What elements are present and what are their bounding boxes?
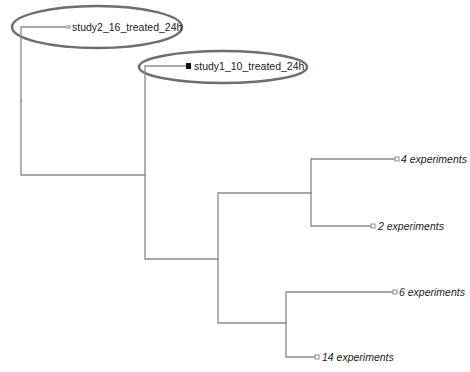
branch-root — [21, 27, 145, 175]
leaf-marker-cluster2[interactable] — [371, 224, 375, 228]
junction-dots — [20, 100, 312, 324]
leaf-label-study1[interactable]: study1_10_treated_24h — [194, 60, 304, 72]
leaf-label-cluster6[interactable]: 6 experiments — [399, 286, 465, 298]
branch-node-d — [286, 292, 393, 357]
dendrogram — [0, 0, 470, 372]
leaf-label-cluster2[interactable]: 2 experiments — [378, 220, 444, 232]
branch-node-c — [311, 159, 395, 226]
leaf-label-study2[interactable]: study2_16_treated_24h — [72, 21, 182, 33]
leaf-label-cluster14[interactable]: 14 experiments — [322, 351, 394, 363]
leaf-label-cluster4[interactable]: 4 experiments — [401, 153, 467, 165]
branch-node-a — [145, 66, 218, 259]
leaf-marker-study1[interactable] — [186, 63, 191, 69]
leaf-marker-cluster4[interactable] — [395, 157, 399, 161]
tree-branches — [21, 27, 395, 357]
leaf-marker-study2[interactable] — [66, 25, 71, 29]
branch-node-b — [218, 193, 311, 323]
leaf-marker-cluster6[interactable] — [393, 290, 397, 294]
leaf-marker-cluster14[interactable] — [315, 355, 319, 359]
